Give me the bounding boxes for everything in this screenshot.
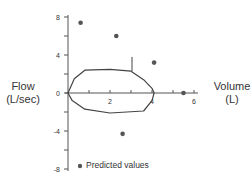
y-tick-label: 0 [56,90,60,97]
data-point [78,20,83,25]
y-tick-label: 4 [56,52,60,59]
legend-dot-icon [78,164,82,168]
data-point [181,91,186,96]
x-tick-label: 2 [108,98,112,105]
x-tick-label: 6 [192,98,196,105]
data-point [152,60,157,65]
y-tick-label: 8 [56,14,60,21]
x-axis-title-line1: Volume [212,80,252,93]
legend-marker-icon [78,164,82,168]
y-tick-label: -4 [54,128,60,135]
legend-label: Predicted values [86,159,149,172]
x-axis-title-line2: (L) [212,93,252,106]
y-axis-title-line1: Flow [0,80,46,93]
predicted-points [78,20,186,136]
data-point [120,132,125,137]
flow-volume-loop [68,69,154,113]
y-axis-title-line2: (L/sec) [0,93,46,106]
loop-path [68,69,154,113]
y-tick-label: -8 [54,166,60,173]
data-point [114,34,119,39]
x-axis-title: Volume (L) [212,80,252,106]
y-axis-title: Flow (L/sec) [0,80,46,106]
